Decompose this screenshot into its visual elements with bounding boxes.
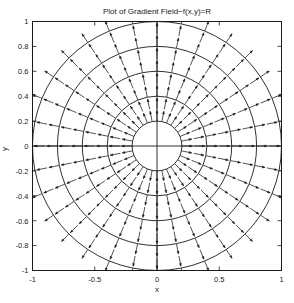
y-axis-label: y xyxy=(0,147,9,151)
y-tick-label: -0.8 xyxy=(16,241,29,250)
y-tick-label: 0.6 xyxy=(18,67,28,76)
x-tick-label: 1 xyxy=(279,275,283,284)
plot-title: Plot of Gradient Field−f(x,y)=R xyxy=(103,7,211,16)
y-tick-label: 0.8 xyxy=(18,42,28,51)
y-tick-label: 0.4 xyxy=(18,92,28,101)
x-tick-label: -1 xyxy=(29,275,36,284)
y-tick-label: -0.6 xyxy=(16,217,29,226)
x-tick-label: 0 xyxy=(155,275,159,284)
y-tick-label: -0.4 xyxy=(16,192,29,201)
x-tick-label: -0.5 xyxy=(88,275,101,284)
y-tick-label: 1 xyxy=(24,17,28,26)
y-tick-label: 0.2 xyxy=(18,117,28,126)
figure-container: Plot of Gradient Field−f(x,y)=R -1-0.500… xyxy=(0,0,294,303)
x-axis-label: x xyxy=(155,285,159,294)
y-tick-label: -0.2 xyxy=(16,167,29,176)
gradient-field-plot: Plot of Gradient Field−f(x,y)=R -1-0.500… xyxy=(0,0,294,303)
x-tick-label: 0.5 xyxy=(214,275,224,284)
y-tick-label: -1 xyxy=(22,266,29,275)
y-tick-label: 0 xyxy=(24,142,28,151)
